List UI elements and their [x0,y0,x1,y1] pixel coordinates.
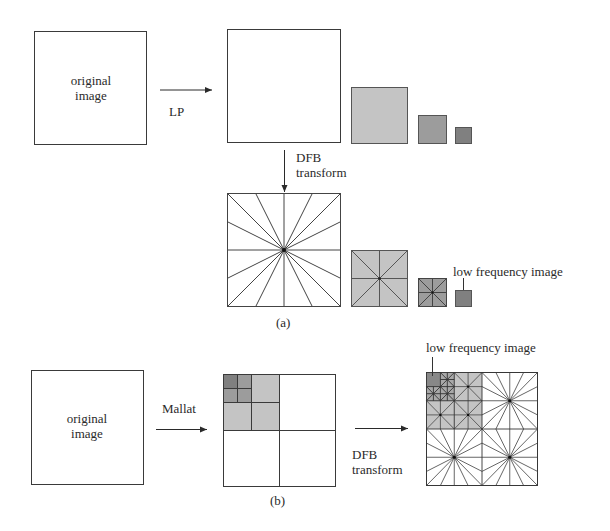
original-image-label-b: original image [52,411,122,441]
lp-label: LP [169,104,184,119]
panel-a [35,30,472,307]
low-frequency-label-a: low frequency image [453,264,563,279]
original-label-b-line1: original [52,411,122,426]
low-frequency-square-a [456,291,472,307]
original-label-b-line2: image [52,426,122,441]
pyramid-level-3 [456,128,472,144]
dfb-label-a-line1: DFB [296,150,347,165]
caption-b: (b) [270,493,285,508]
original-image-label-a: original image [56,73,126,103]
dfb-grid-8-directions-large [352,251,408,307]
dfb-grid-16-directions [228,194,341,307]
dfb-label-b-line2: transform [352,462,403,477]
dfb-grid-8-directions-small [419,279,447,307]
mallat-decomposition [224,375,336,487]
pyramid-level-1 [352,88,408,144]
original-label-a-line2: image [56,88,126,103]
dfb-transform-label-b: DFB transform [352,447,403,477]
dfb-on-mallat [427,373,538,486]
pyramid-level-2 [419,116,447,144]
dfb-label-b-line1: DFB [352,447,403,462]
original-label-a-line1: original [56,73,126,88]
mallat-label: Mallat [162,401,196,416]
dfb-label-a-line2: transform [296,165,347,180]
dfb-transform-label-a: DFB transform [296,150,347,180]
caption-a: (a) [276,315,290,330]
low-frequency-label-b: low frequency image [426,340,536,355]
lp-output-box [228,30,341,143]
